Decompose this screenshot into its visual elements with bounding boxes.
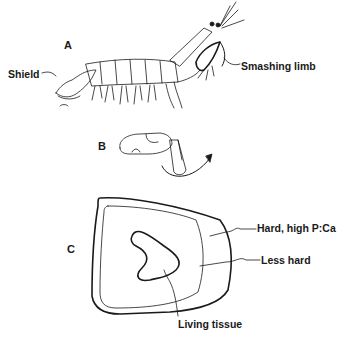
limb-rotation-drawing <box>120 133 212 176</box>
less-hard-label: Less hard <box>261 255 311 266</box>
living-tissue-label: Living tissue <box>178 319 242 330</box>
middle-boundary <box>100 206 203 308</box>
shield-label: Shield <box>8 69 40 80</box>
smashing-limb-label: Smashing limb <box>241 61 316 72</box>
figure-drawing <box>0 0 344 337</box>
panel-label-c: C <box>67 244 75 255</box>
inner-living-tissue <box>131 231 179 280</box>
outer-boundary <box>92 198 231 314</box>
panel-label-b: B <box>98 141 106 152</box>
panel-label-a: A <box>64 40 72 51</box>
mantis-shrimp-drawing <box>42 2 244 108</box>
hard-high-pca-label: Hard, high P:Ca <box>257 223 336 234</box>
cross-section-drawing <box>92 198 260 316</box>
